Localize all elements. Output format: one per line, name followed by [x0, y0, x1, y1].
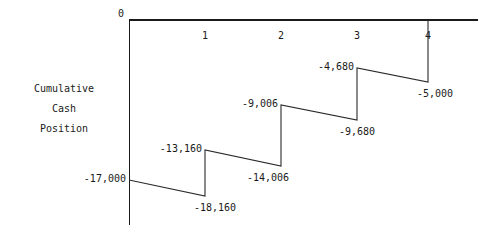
x-tick-label-1: 1: [192, 30, 218, 42]
value-label-minus-13160: -13,160: [144, 143, 202, 155]
value-label-minus-14006: -14,006: [239, 172, 297, 184]
x-tick-label-3: 3: [344, 30, 370, 42]
value-label-minus-18160: -18,160: [186, 202, 244, 214]
value-label-minus-4680: -4,680: [304, 61, 354, 73]
value-label-minus-9006: -9,006: [228, 98, 278, 110]
value-label-minus-9680: -9,680: [331, 126, 383, 138]
value-label-minus-17000: -17,000: [70, 173, 126, 185]
cash-position-series: [129, 20, 428, 196]
x-tick-label-4: 4: [415, 30, 441, 42]
chart-figure: Cumulative Cash Position 0 1 2 3 4 -17,0…: [0, 0, 490, 239]
value-label-minus-5000: -5,000: [409, 88, 461, 100]
axis-label-zero: 0: [102, 8, 124, 20]
x-tick-label-2: 2: [268, 30, 294, 42]
